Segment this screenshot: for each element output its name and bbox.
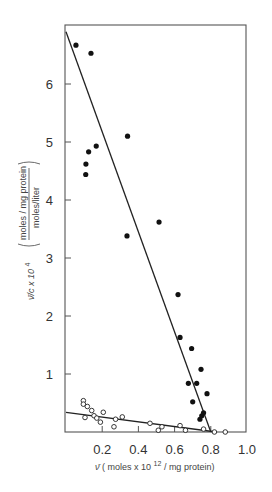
filled-data-point [190, 399, 195, 404]
plot-border [65, 25, 246, 432]
open-data-point [98, 420, 103, 425]
y-tick-label: 4 [46, 193, 53, 208]
y-axis-right-paren [18, 162, 40, 164]
fit-lines [66, 32, 216, 432]
x-axis-label-exp: 12 [154, 460, 162, 467]
x-tick-label: 0.4 [129, 442, 147, 457]
x-tick-label: 0.8 [202, 442, 220, 457]
open-data-point [94, 416, 99, 421]
open-data-point [178, 423, 183, 428]
x-axis-label-text: ( moles x 10 [102, 462, 151, 472]
open-data-point [89, 408, 94, 413]
filled-data-point [201, 410, 206, 415]
y-axis-label: ν̄/c x 10 4 moles / mg protein moles/lit… [18, 162, 41, 300]
filled-data-point [194, 381, 199, 386]
y-tick-label: 2 [46, 309, 53, 324]
filled-data-point [83, 161, 88, 166]
filled-data-point [186, 381, 191, 386]
filled-data-point [189, 346, 194, 351]
open-data-point [148, 421, 153, 426]
y-axis-label-denominator: moles/liter [31, 187, 41, 228]
open-data-point [223, 430, 228, 435]
y-tick-label: 3 [46, 251, 53, 266]
filled-data-point [86, 149, 91, 154]
open-data-point [183, 428, 188, 433]
open-data-point [85, 404, 90, 409]
y-axis-left-paren [18, 244, 40, 246]
x-tick-label: 0.2 [93, 442, 111, 457]
open-data-point [201, 427, 206, 432]
y-tick-label: 1 [46, 367, 53, 382]
filled-data-point [124, 233, 129, 238]
y-axis-label-numerator: moles / mg protein [18, 166, 28, 240]
y-axis-label-exp: 4 [24, 262, 31, 266]
x-tick-label: 1.0 [238, 442, 256, 457]
x-axis-label-suffix: / mg protein) [164, 462, 215, 472]
x-tick-label: 0.6 [166, 442, 184, 457]
filled-data-point [125, 134, 130, 139]
open-data-point [113, 417, 118, 422]
fit-line [66, 412, 216, 432]
data-points [73, 43, 227, 435]
fit-line [66, 32, 211, 432]
open-data-point [112, 424, 117, 429]
filled-data-point [156, 219, 161, 224]
plot-frame [65, 25, 246, 432]
open-data-point [101, 410, 106, 415]
filled-data-point [94, 143, 99, 148]
svg-text:ν̄ ( moles x 10 12: ν̄ ( moles x 10 12 / mg protein) [95, 458, 214, 472]
x-axis-label: ν̄ ( moles x 10 12 / mg protein) [95, 458, 214, 472]
filled-data-point [83, 172, 88, 177]
open-data-point [120, 415, 125, 420]
filled-data-point [73, 43, 78, 48]
filled-data-point [88, 51, 93, 56]
svg-text:ν̄/c x 10 4: ν̄/c x 10 4 [24, 262, 36, 300]
filled-data-point [198, 367, 203, 372]
y-tick-label: 6 [46, 77, 53, 92]
filled-data-point [177, 335, 182, 340]
open-data-point [83, 415, 88, 420]
x-axis-label-prefix: ν̄ [95, 462, 102, 472]
filled-data-point [204, 391, 209, 396]
y-tick-label: 5 [46, 135, 53, 150]
open-data-point [212, 430, 217, 435]
scatchard-plot: 0.20.40.60.81.0123456 ν̄ ( moles x 10 12… [0, 0, 272, 492]
open-data-point [156, 428, 161, 433]
filled-data-point [175, 292, 180, 297]
y-axis-label-prefix: ν̄/c x 10 [26, 269, 36, 300]
